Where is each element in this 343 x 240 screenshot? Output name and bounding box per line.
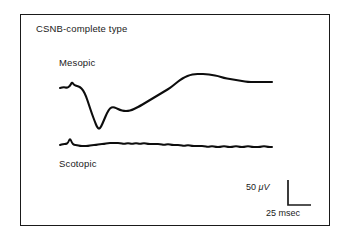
erg-figure: CSNB-complete type Mesopic Scotopic 50 μ…	[0, 0, 343, 240]
scale-h-unit: msec	[279, 208, 301, 218]
scale-v-unit: μV	[259, 182, 270, 192]
scale-v-value: 50	[246, 182, 256, 192]
scale-h-value: 25	[266, 208, 276, 218]
scale-bar-horizontal-label: 25 msec	[266, 208, 300, 218]
waveform-mesopic	[60, 74, 272, 129]
scale-bar	[288, 180, 311, 205]
waveform-canvas	[0, 0, 343, 240]
scale-bar-vertical-label: 50 μV	[246, 182, 269, 192]
waveform-scotopic	[60, 139, 272, 147]
